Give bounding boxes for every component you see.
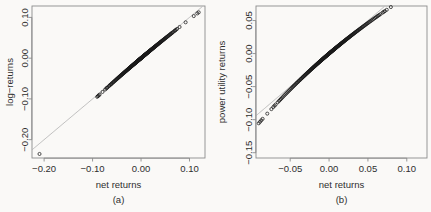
- scatter-panel-b: −0.050.000.050.100.050.00−0.05−0.10−0.15…: [215, 0, 431, 212]
- plot-frame: [256, 6, 427, 158]
- y-tick-label: −0.10: [244, 108, 255, 132]
- x-tick-label: 0.00: [132, 163, 151, 174]
- x-axis-title: net returns: [96, 179, 142, 190]
- y-tick-label: 0.05: [244, 11, 255, 30]
- y-axis-title: log−returns: [4, 58, 15, 106]
- panel-caption: (a): [113, 194, 125, 205]
- data-point: [38, 152, 41, 155]
- panel-b-canvas: −0.050.000.050.100.050.00−0.05−0.10−0.15…: [215, 0, 431, 212]
- y-tick-label: −0.05: [244, 75, 255, 99]
- y-tick-label: −0.10: [20, 87, 31, 111]
- x-tick-label: −0.10: [81, 163, 105, 174]
- x-tick-label: 0.00: [320, 163, 339, 174]
- y-axis-title: power utility returns: [216, 41, 227, 124]
- x-tick-label: −0.20: [32, 163, 56, 174]
- data-point: [192, 15, 195, 18]
- figure-container: −0.20−0.100.000.100.100.00−0.10−0.20net …: [0, 0, 431, 212]
- x-tick-label: −0.05: [278, 163, 302, 174]
- panel-caption: (b): [336, 194, 348, 205]
- y-tick-label: −0.20: [20, 128, 31, 152]
- scatter-panel-a: −0.20−0.100.000.100.100.00−0.10−0.20net …: [0, 0, 215, 212]
- data-points: [257, 6, 392, 125]
- x-tick-label: 0.10: [180, 163, 199, 174]
- data-points: [38, 11, 200, 156]
- y-tick-label: 0.10: [20, 8, 31, 27]
- data-point: [266, 112, 269, 115]
- x-axis-title: net returns: [319, 179, 365, 190]
- y-tick-label: −0.15: [244, 141, 255, 165]
- panel-a-canvas: −0.20−0.100.000.100.100.00−0.10−0.20net …: [0, 0, 215, 212]
- y-tick-label: 0.00: [20, 49, 31, 68]
- x-tick-label: 0.10: [398, 163, 417, 174]
- x-tick-label: 0.05: [359, 163, 378, 174]
- y-tick-label: 0.00: [244, 44, 255, 63]
